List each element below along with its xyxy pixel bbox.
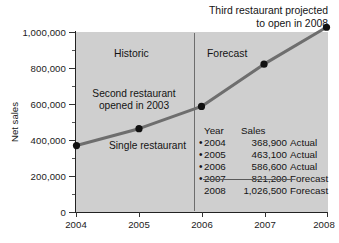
y-tick-minor-300000 [72,158,76,159]
y-axis-label-400000: 400,000 [31,135,66,146]
y-tick-minor-100000 [72,194,76,195]
x-tick-2008 [327,212,328,217]
table-row: • 2006 586,600 Actual [199,161,328,173]
x-axis-label-2005: 2005 [128,219,150,230]
row-year: 2004 [204,137,231,149]
row-sales: 586,600 [231,161,290,173]
row-sales: 1,026,500 [231,185,290,197]
row-status: Forecast [290,173,328,185]
row-year: 2005 [204,149,231,161]
callout-single-restaurant: Single restaurant [109,140,186,152]
y-tick-1000000 [69,32,75,33]
table-header-sales: Sales [231,125,300,137]
table-header-year: Year [204,125,231,137]
x-tick-2007 [265,212,266,217]
net-sales-line-chart: 1,000,000 800,000 600,000 400,000 200,00… [0,0,339,243]
callout-second-restaurant: Second restaurant opened in 2003 [75,88,193,113]
row-sales: 821,200 [231,173,290,185]
row-year: 2007 [204,173,231,185]
x-axis-label-2007: 2007 [254,219,276,230]
y-axis-label-200000: 200,000 [31,171,66,182]
callout-third-restaurant-line2: to open in 2008 [209,18,328,31]
row-year: 2006 [204,161,231,173]
inline-data-table: Year Sales • 2004 368,900 Actual • 2005 … [199,125,328,198]
table-row: • 2007 821,200 Forecast [199,173,328,185]
row-status: Actual [290,161,317,173]
y-axis-label-1000000: 1,000,000 [22,27,66,38]
region-label-forecast: Forecast [207,48,247,60]
y-axis-label-800000: 800,000 [31,63,66,74]
x-axis-label-2004: 2004 [65,219,87,230]
table-divider-rule [203,179,292,180]
row-sales: 368,900 [231,137,290,149]
y-tick-800000 [69,68,75,69]
callout-third-restaurant: Third restaurant projected to open in 20… [209,5,328,30]
region-label-historic: Historic [114,48,149,60]
row-status: Actual [290,137,317,149]
x-tick-2004 [76,212,77,217]
row-status: Forecast [290,185,328,197]
y-axis-label-0: 0 [61,207,66,218]
x-tick-2005 [139,212,140,217]
row-status: Actual [290,149,317,161]
x-axis-label-2008: 2008 [313,219,335,230]
row-year: 2008 [204,185,231,197]
x-axis-label-2006: 2006 [191,219,213,230]
y-tick-400000 [69,140,75,141]
callout-third-restaurant-line1: Third restaurant projected [209,5,328,18]
callout-second-restaurant-line2: opened in 2003 [75,100,193,112]
row-sales: 463,100 [231,149,290,161]
table-row: • 2004 368,900 Actual [199,137,328,149]
y-tick-0 [69,212,75,213]
y-tick-minor-900000 [72,50,76,51]
table-row: 2008 1,026,500 Forecast [199,185,328,197]
y-axis-title: Net sales [9,102,20,142]
table-header-row: Year Sales [199,125,328,137]
y-tick-200000 [69,176,75,177]
y-tick-minor-500000 [72,122,76,123]
callout-second-restaurant-line1: Second restaurant [75,88,193,100]
table-row: • 2005 463,100 Actual [199,149,328,161]
historic-forecast-divider [194,33,195,211]
x-tick-2006 [202,212,203,217]
y-axis-line [75,31,76,213]
y-axis-label-600000: 600,000 [31,99,66,110]
